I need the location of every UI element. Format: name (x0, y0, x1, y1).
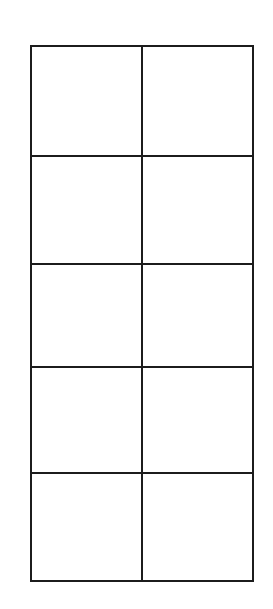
table-cell[interactable] (31, 46, 142, 156)
table-row (31, 367, 253, 473)
table-cell[interactable] (142, 367, 253, 473)
table-cell[interactable] (142, 156, 253, 264)
table-row (31, 473, 253, 581)
table-cell[interactable] (142, 473, 253, 581)
table-row (31, 264, 253, 367)
table-cell-text (32, 265, 141, 366)
table-cell-text (143, 47, 252, 155)
table-cell[interactable] (142, 46, 253, 156)
table-cell-text (143, 368, 252, 472)
table-cell-text (32, 157, 141, 263)
table-cell[interactable] (31, 156, 142, 264)
table-cell-text (32, 368, 141, 472)
table-cell-text (32, 474, 141, 580)
table-cell[interactable] (142, 264, 253, 367)
table-row (31, 156, 253, 264)
table-cell-text (143, 265, 252, 366)
table-row (31, 46, 253, 156)
table-cell[interactable] (31, 367, 142, 473)
table-cell-text (32, 47, 141, 155)
scanned-page (0, 0, 273, 609)
blank-grid-table (30, 45, 254, 582)
table-cell[interactable] (31, 473, 142, 581)
table-cell-text (143, 157, 252, 263)
table-cell[interactable] (31, 264, 142, 367)
table-cell-text (143, 474, 252, 580)
